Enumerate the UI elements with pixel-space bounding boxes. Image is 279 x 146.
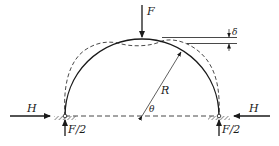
support-right-pin (217, 114, 221, 118)
radius-label: R (160, 84, 169, 97)
arch-deflected (65, 40, 220, 116)
arch-solid (65, 39, 219, 116)
thrust-right-label: H (248, 102, 259, 115)
reaction-right-label: F/2 (221, 123, 240, 136)
angle-label: θ (149, 104, 155, 114)
support-left-pin (63, 114, 67, 118)
delta-label: δ (232, 27, 237, 37)
reaction-left-label: F/2 (67, 123, 86, 136)
load-label: F (146, 5, 155, 18)
arch-diagram: F δ R θ H H F/2 F/2 (0, 0, 279, 146)
arch-diagram-svg: F δ R θ H H F/2 F/2 (0, 0, 279, 146)
thrust-left-label: H (26, 102, 37, 115)
